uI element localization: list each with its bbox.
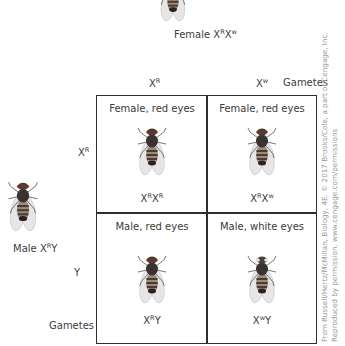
cell-genotype: XRXR (97, 193, 207, 204)
cell-phenotype: Male, red eyes (97, 221, 207, 232)
row-gamete-1: XR (78, 147, 89, 158)
cell-genotype: XwY (207, 315, 317, 326)
copyright-credit: From Russell/Hertz/McMillan, Biology, 4E… (320, 4, 342, 342)
punnett-cell-xrxw: Female, red eyes XRXw (207, 96, 317, 212)
cell-phenotype: Female, red eyes (97, 103, 207, 114)
female-label-prefix: Female (174, 29, 213, 40)
row-gametes-label: Gametes (49, 320, 94, 331)
cell-genotype: XRXw (207, 193, 317, 204)
column-gamete-1: XR (149, 78, 160, 89)
cell-genotype: XRY (97, 315, 207, 326)
male-parent (4, 176, 42, 236)
cell-phenotype: Female, red eyes (207, 103, 317, 114)
credit-line-1: From Russell/Hertz/McMillan, Biology, 4E… (320, 4, 330, 342)
punnett-cell-xwy: Male, white eyes XwY (207, 214, 317, 344)
fly-icon (134, 122, 170, 178)
credit-line-2: Reproduced by permission. www.cengage.co… (330, 4, 340, 342)
fly-icon (134, 250, 170, 306)
fly-icon (244, 250, 280, 306)
row-gamete-2: Y (74, 267, 80, 278)
cell-phenotype: Male, white eyes (207, 221, 317, 232)
punnett-cell-xrxr: Female, red eyes XRXR (97, 96, 207, 212)
male-parent-fly-icon (4, 176, 42, 234)
punnett-square: Female, red eyes XRXR Female, red eyes X… (96, 95, 317, 344)
punnett-cell-xry: Male, red eyes XRY (97, 214, 207, 344)
male-parent-label: Male XRY (13, 243, 57, 254)
female-parent-label: Female XRXw (174, 29, 237, 40)
fly-icon (244, 122, 280, 178)
male-label-prefix: Male (13, 243, 40, 254)
column-gamete-2: Xw (256, 78, 268, 89)
female-parent (145, 0, 201, 30)
female-parent-fly-icon (145, 0, 201, 24)
